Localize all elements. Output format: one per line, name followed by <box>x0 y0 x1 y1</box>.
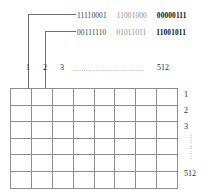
grid-cell <box>115 138 136 155</box>
grid-cell <box>52 89 73 106</box>
pixel-grid-body <box>11 89 178 189</box>
grid-cell <box>157 171 178 188</box>
leader-line-vertical-2 <box>45 31 46 88</box>
grid-cell <box>136 138 157 155</box>
binary-group: 00111110 <box>77 28 106 37</box>
table-row <box>11 138 178 155</box>
grid-cell <box>94 138 115 155</box>
grid-cell <box>11 171 32 188</box>
figure-canvas: 11110001 11001000 00000111 00111110 0101… <box>0 0 217 194</box>
table-row <box>11 105 178 122</box>
grid-cell <box>31 89 52 106</box>
table-row <box>11 122 178 139</box>
grid-cell <box>31 122 52 139</box>
grid-cell <box>115 171 136 188</box>
grid-cell <box>73 155 94 172</box>
table-row <box>11 89 178 106</box>
leader-line-horizontal-1 <box>28 14 76 15</box>
column-label-2: 2 <box>39 63 51 72</box>
row-label-3: 3 <box>184 122 212 131</box>
grid-cell <box>31 105 52 122</box>
grid-cell <box>73 122 94 139</box>
grid-cell <box>52 171 73 188</box>
grid-cell <box>73 105 94 122</box>
grid-cell <box>11 122 32 139</box>
grid-cell <box>11 105 32 122</box>
pixel-grid-table <box>10 88 178 189</box>
binary-group: 11110001 <box>77 11 107 20</box>
grid-cell <box>52 155 73 172</box>
row-label-2: 2 <box>184 106 212 115</box>
column-label-512: 512 <box>150 63 176 72</box>
grid-cell <box>73 171 94 188</box>
grid-cell <box>73 138 94 155</box>
grid-cell <box>52 122 73 139</box>
binary-group: 11001000 <box>117 11 147 20</box>
row-label-512: 512 <box>184 169 212 178</box>
leader-line-vertical-1 <box>28 14 29 88</box>
grid-cell <box>136 171 157 188</box>
grid-cell <box>115 105 136 122</box>
grid-cell <box>136 105 157 122</box>
grid-cell <box>73 89 94 106</box>
row-label-1: 1 <box>184 90 212 99</box>
grid-cell <box>136 155 157 172</box>
table-row <box>11 171 178 188</box>
grid-cell <box>94 89 115 106</box>
grid-cell <box>52 105 73 122</box>
binary-group: 01011011 <box>116 28 146 37</box>
grid-cell <box>157 105 178 122</box>
grid-cell <box>52 138 73 155</box>
row-ellipsis: ::::: <box>188 134 194 166</box>
binary-annotation-row-1: 11110001 11001000 00000111 <box>77 11 187 20</box>
column-label-3: 3 <box>56 63 68 72</box>
leader-line-horizontal-2 <box>45 31 76 32</box>
grid-cell <box>157 138 178 155</box>
grid-cell <box>115 122 136 139</box>
table-row <box>11 155 178 172</box>
grid-cell <box>136 89 157 106</box>
grid-cell <box>31 155 52 172</box>
grid-cell <box>11 138 32 155</box>
column-ellipsis: ............................... <box>72 66 149 73</box>
grid-cell <box>94 155 115 172</box>
grid-cell <box>157 89 178 106</box>
grid-cell <box>157 122 178 139</box>
grid-cell <box>94 122 115 139</box>
grid-cell <box>94 171 115 188</box>
grid-cell <box>115 155 136 172</box>
binary-annotation-row-2: 00111110 01011011 11001011 <box>77 28 186 37</box>
binary-group-highlighted: 11001011 <box>156 28 186 37</box>
grid-cell <box>31 171 52 188</box>
grid-cell <box>94 105 115 122</box>
column-label-1: 1 <box>22 63 34 72</box>
grid-cell <box>136 122 157 139</box>
grid-cell <box>11 155 32 172</box>
grid-cell <box>157 155 178 172</box>
binary-group-highlighted: 00000111 <box>157 11 187 20</box>
grid-cell <box>31 138 52 155</box>
grid-cell <box>115 89 136 106</box>
grid-cell <box>11 89 32 106</box>
